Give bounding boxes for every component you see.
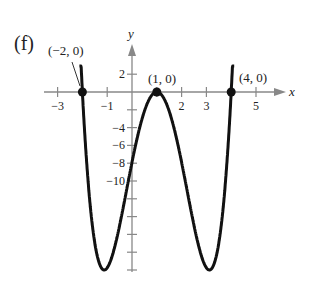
y-axis-arrow-icon: [128, 44, 136, 56]
point-label: (4, 0): [239, 70, 267, 85]
panel-label: (f): [14, 32, 34, 55]
x-tick-label: 3: [203, 99, 209, 113]
x-tick-label: 5: [253, 99, 259, 113]
y-tick-label: 2: [119, 67, 125, 81]
leader-line: [72, 62, 80, 86]
zero-point: [152, 88, 161, 97]
y-tick-label: −6: [112, 138, 125, 152]
chart-figure: (f)xy−3−12352−4−6−8−10(−2, 0)(1, 0)(4, 0…: [0, 0, 315, 296]
y-tick-label: −10: [106, 174, 125, 188]
zero-point: [227, 88, 236, 97]
x-tick-label: 2: [179, 99, 185, 113]
y-tick-label: −4: [112, 121, 125, 135]
x-axis-arrow-icon: [274, 88, 286, 96]
zero-point: [78, 88, 87, 97]
point-label: (−2, 0): [48, 43, 84, 58]
y-axis-label: y: [126, 26, 134, 41]
x-axis-label: x: [288, 84, 295, 99]
x-tick-label: −3: [51, 99, 64, 113]
chart-svg: (f)xy−3−12352−4−6−8−10(−2, 0)(1, 0)(4, 0…: [0, 0, 315, 296]
x-tick-label: −1: [101, 99, 114, 113]
y-tick-label: −8: [112, 156, 125, 170]
point-label: (1, 0): [148, 71, 176, 86]
